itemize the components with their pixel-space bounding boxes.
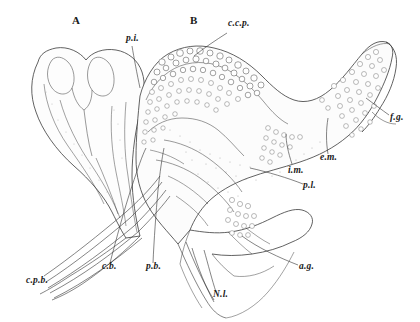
label-nl: N.l. — [213, 289, 228, 299]
panel-a-outline — [32, 48, 144, 238]
ag-cell-cluster — [226, 197, 257, 237]
figure-drawing: .o { fill:none; stroke:#3a3a3a; stroke-w… — [0, 0, 420, 322]
label-ccp: c.c.p. — [228, 18, 250, 28]
panel-label-b: B — [190, 14, 198, 26]
label-im: i.m. — [288, 165, 304, 175]
panel-b-outline — [136, 42, 397, 277]
label-em: e.m. — [320, 152, 337, 162]
label-cpb: c.p.b. — [26, 275, 48, 285]
label-fg: f.g. — [390, 112, 403, 122]
anatomical-figure: .o { fill:none; stroke:#3a3a3a; stroke-w… — [0, 0, 420, 322]
label-ag: a.g. — [299, 261, 314, 271]
label-pl: p.l. — [303, 180, 316, 190]
label-pi: p.i. — [126, 33, 139, 43]
label-pb: p.b. — [146, 261, 161, 271]
label-cb: c.b. — [102, 261, 117, 271]
panel-label-a: A — [72, 14, 80, 26]
